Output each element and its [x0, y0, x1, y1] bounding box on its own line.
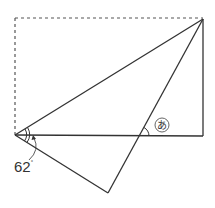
bottom-edge: [15, 135, 203, 136]
folded-bottom-edge: [108, 19, 203, 193]
solid-edges: [15, 19, 203, 193]
given-angle-label: 62°: [14, 158, 34, 175]
leader-line: [29, 138, 36, 160]
angle-arc-a: [144, 128, 149, 137]
unknown-angle-marker: あ: [155, 118, 169, 132]
unknown-angle-label: あ: [157, 120, 167, 131]
folded-rectangle-diagram: 62° あ: [0, 0, 215, 208]
fold-line-diagonal: [15, 19, 203, 135]
